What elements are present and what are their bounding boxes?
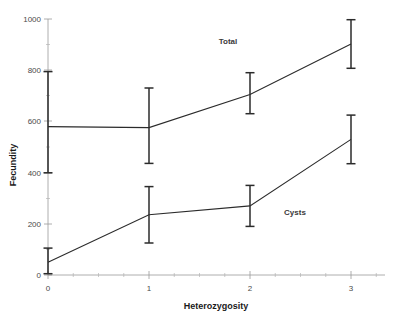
x-tick-label-3: 3 [349,284,354,293]
y-tick-label-200: 200 [28,220,42,229]
fecundity-heterozygosity-chart: 1000 800 600 400 200 0 0 1 2 3 Fecundity… [0,0,402,321]
y-axis-title: Fecundity [8,144,18,187]
y-tick-label-0: 0 [37,271,42,280]
series-annotation-total: Total [219,37,238,46]
y-tick-label-400: 400 [28,169,42,178]
x-tick-label-1: 1 [147,284,152,293]
x-tick-label-2: 2 [248,284,253,293]
errorbars-total [44,20,356,173]
errorbars-cysts [44,115,356,274]
series-line-cysts [48,139,351,262]
series-annotation-cysts: Cysts [284,208,306,217]
y-tick-label-800: 800 [28,66,42,75]
x-axis-title: Heterozygosity [184,301,249,311]
y-tick-label-600: 600 [28,117,42,126]
series-line-total [48,44,351,128]
x-tick-labels: 0 1 2 3 [46,284,354,293]
axes-group [48,19,385,275]
x-tick-label-0: 0 [46,284,51,293]
y-tick-labels: 1000 800 600 400 200 0 [23,15,41,280]
y-tick-label-1000: 1000 [23,15,41,24]
